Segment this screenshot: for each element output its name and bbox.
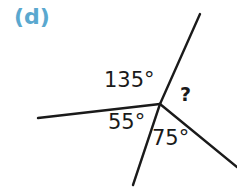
angle-label-55: 55° <box>108 112 145 133</box>
angle-label-135: 135° <box>104 70 155 91</box>
angle-label-unknown: ? <box>180 85 191 104</box>
angle-diagram <box>0 0 237 189</box>
geometry-figure: (d) 135° ? 75° 55° <box>0 0 237 189</box>
angle-label-75: 75° <box>152 128 189 149</box>
